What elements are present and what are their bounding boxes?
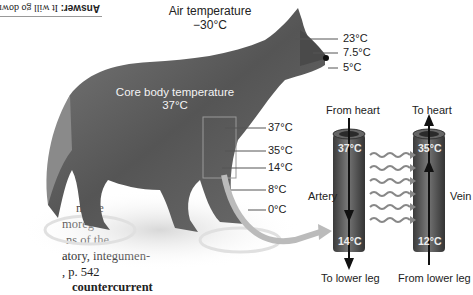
leg-temp-5: 0°C: [268, 203, 286, 215]
artery-top-temp: 37°C: [338, 142, 361, 154]
artery-bottom-temp: 14°C: [338, 235, 361, 247]
to-heart-label: To heart: [412, 104, 452, 116]
to-lower-leg-label: To lower leg: [321, 272, 380, 284]
from-lower-leg-label: From lower leg: [398, 272, 471, 284]
head-temp-2: 7.5°C: [343, 46, 371, 58]
air-temperature-label: Air temperature −30°C: [150, 4, 270, 32]
artery-label: Artery: [308, 190, 337, 202]
vein-bottom-temp: 12°C: [418, 235, 441, 247]
leg-temp-3: 14°C: [268, 161, 293, 173]
wolf-nose: [323, 55, 329, 61]
air-temperature-title: Air temperature: [150, 4, 270, 18]
air-temperature-value: −30°C: [150, 18, 270, 32]
leg-temp-1: 37°C: [268, 121, 293, 133]
core-body-temperature-label: Core body temperature 37°C: [105, 86, 245, 112]
core-temperature-title: Core body temperature: [105, 86, 245, 99]
leg-temp-4: 8°C: [268, 183, 286, 195]
leg-temp-2: 35°C: [268, 144, 293, 156]
core-temperature-value: 37°C: [105, 99, 245, 112]
from-heart-label: From heart: [326, 104, 380, 116]
vein-top-temp: 35°C: [418, 142, 441, 154]
vein-label: Vein: [450, 190, 471, 202]
head-temp-3: 5°C: [343, 61, 361, 73]
wolf-body: [48, 8, 325, 232]
artery-down-arrow: [344, 258, 354, 270]
head-temp-1: 23°C: [343, 32, 368, 44]
heat-transfer-arrows: [370, 153, 410, 222]
